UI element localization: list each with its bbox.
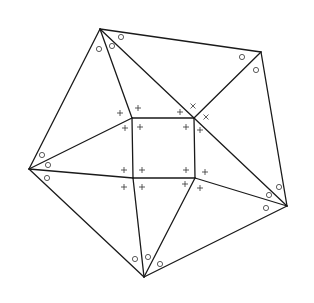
plus-marker	[197, 185, 203, 191]
plus-marker	[183, 124, 189, 130]
plus-marker	[183, 167, 189, 173]
edge-QR	[194, 118, 195, 178]
x-marker	[191, 104, 196, 109]
edge-CA	[29, 29, 100, 169]
edge-ES	[133, 178, 144, 277]
circle-marker	[118, 34, 123, 39]
circle-marker	[276, 184, 281, 189]
pentagon-graph-diagram	[0, 0, 314, 303]
x-marker	[204, 115, 209, 120]
edge-ER	[144, 178, 195, 277]
plus-marker	[122, 125, 128, 131]
edge-SP	[132, 118, 133, 178]
circle-marker	[132, 256, 137, 261]
circle-marker	[263, 205, 268, 210]
circle-marker	[253, 67, 258, 72]
circle-marker	[44, 175, 49, 180]
circle-marker	[109, 43, 114, 48]
plus-marker	[139, 184, 145, 190]
edge-AB	[100, 29, 261, 52]
circle-marker	[145, 254, 150, 259]
plus-marker	[197, 127, 203, 133]
plus-marker	[137, 124, 143, 130]
edge-BQ	[194, 52, 261, 118]
plus-marker	[182, 181, 188, 187]
plus-marker	[117, 110, 123, 116]
plus-marker	[121, 167, 127, 173]
edge-CP	[29, 118, 132, 169]
edge-BD	[261, 52, 287, 206]
edge-DQ	[194, 118, 287, 206]
plus-marker	[121, 184, 127, 190]
edge-EC	[29, 169, 144, 277]
circle-marker	[157, 261, 162, 266]
plus-marker	[135, 105, 141, 111]
plus-marker	[177, 109, 183, 115]
circle-marker	[39, 152, 44, 157]
edge-DE	[144, 206, 287, 277]
plus-marker	[139, 167, 145, 173]
edge-DR	[195, 178, 287, 206]
plus-marker	[202, 169, 208, 175]
edge-AQ	[100, 29, 194, 118]
circle-marker	[266, 192, 271, 197]
graph-edges	[29, 29, 287, 277]
angle-circle-markers	[39, 34, 281, 266]
circle-marker	[239, 54, 244, 59]
circle-marker	[45, 162, 50, 167]
circle-marker	[96, 46, 101, 51]
edge-AP	[100, 29, 132, 118]
